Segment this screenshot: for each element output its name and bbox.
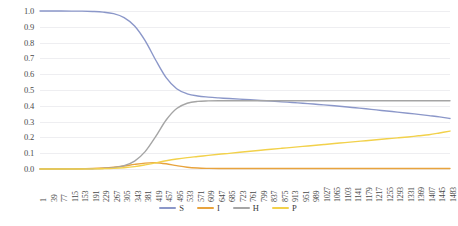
x-axis-tick-label: 343 (133, 191, 142, 202)
x-axis-tick-label: 191 (91, 191, 100, 202)
x-axis-tick-label: 1103 (343, 187, 352, 202)
legend-line-swatch-icon (272, 207, 289, 209)
y-axis-tick-label: 0.5 (24, 85, 34, 95)
y-axis: 1.00.90.80.70.60.50.40.30.20.10.0 (0, 11, 38, 169)
x-axis-tick-label: 1065 (333, 187, 342, 202)
x-axis-tick-label: 571 (196, 191, 205, 202)
series-line-p (40, 131, 450, 169)
x-axis-tick-label: 1027 (322, 187, 331, 202)
series-line-s (40, 11, 450, 118)
x-axis-tick-label: 723 (238, 191, 247, 202)
x-axis-tick-label: 267 (112, 191, 121, 202)
x-axis-tick-label: 685 (228, 191, 237, 202)
x-axis-tick-label: 799 (259, 191, 268, 202)
legend-item-p[interactable]: P (272, 204, 297, 213)
x-axis-tick-label: 875 (280, 191, 289, 202)
y-axis-tick-label: 0.2 (24, 132, 34, 142)
x-axis-tick-label: 77 (60, 195, 69, 202)
legend-item-h[interactable]: H (233, 204, 259, 213)
x-axis-tick-label: 533 (186, 191, 195, 202)
x-axis-tick-label: 419 (154, 191, 163, 202)
x-axis-tick-label: 1179 (364, 187, 373, 202)
x-axis-tick-label: 1141 (354, 187, 363, 202)
x-axis-tick-label: 1 (39, 198, 48, 202)
legend-item-i[interactable]: I (197, 204, 220, 213)
x-axis-tick-label: 229 (102, 191, 111, 202)
plot-area (40, 11, 450, 169)
series-layer (40, 11, 450, 169)
x-axis-tick-label: 457 (165, 191, 174, 202)
x-axis-tick-label: 495 (175, 191, 184, 202)
legend-line-swatch-icon (159, 207, 176, 209)
x-axis-tick-label: 1217 (375, 187, 384, 202)
legend-item-label: P (292, 204, 297, 213)
y-axis-tick-label: 0.7 (24, 53, 34, 63)
legend-line-swatch-icon (197, 207, 214, 209)
y-axis-tick-label: 0.8 (24, 38, 34, 48)
x-axis-tick-label: 153 (81, 191, 90, 202)
y-axis-tick-label: 0.4 (24, 101, 34, 111)
x-axis-tick-label: 609 (207, 191, 216, 202)
x-axis-tick-label: 1293 (396, 187, 405, 202)
legend-item-label: S (179, 204, 184, 213)
x-axis-tick-label: 913 (291, 191, 300, 202)
x-axis-tick-label: 1407 (427, 187, 436, 202)
x-axis-tick-label: 1369 (417, 187, 426, 202)
legend-item-s[interactable]: S (159, 204, 184, 213)
x-axis-tick-label: 1331 (406, 187, 415, 202)
y-axis-tick-label: 0.1 (24, 148, 34, 158)
chart-legend: SIHP (0, 204, 456, 213)
x-axis-tick-label: 647 (217, 191, 226, 202)
x-axis-tick-label: 115 (70, 191, 79, 202)
x-axis-tick-label: 989 (312, 191, 321, 202)
x-axis-tick-label: 951 (301, 191, 310, 202)
x-axis: 1397711515319122926730534338141945749553… (40, 170, 450, 202)
x-axis-tick-label: 761 (249, 191, 258, 202)
y-axis-tick-label: 0.6 (24, 69, 34, 79)
x-axis-tick-label: 305 (123, 191, 132, 202)
x-axis-tick-label: 381 (144, 191, 153, 202)
x-axis-tick-label: 39 (49, 195, 58, 202)
x-axis-tick-label: 837 (270, 191, 279, 202)
x-axis-tick-label: 1255 (385, 187, 394, 202)
y-axis-tick-label: 1.0 (24, 6, 34, 16)
x-axis-tick-label: 1445 (438, 187, 447, 202)
y-axis-tick-label: 0.0 (24, 164, 34, 174)
legend-item-label: H (253, 204, 259, 213)
y-axis-tick-label: 0.3 (24, 117, 34, 127)
y-axis-tick-label: 0.9 (24, 22, 34, 32)
legend-line-swatch-icon (233, 207, 250, 209)
x-axis-tick-label: 1483 (449, 187, 458, 202)
legend-item-label: I (217, 204, 220, 213)
